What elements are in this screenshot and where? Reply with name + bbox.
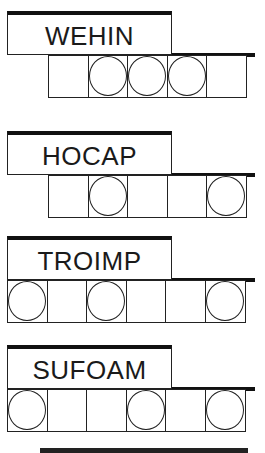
answer-cell-circled[interactable] [205, 280, 246, 323]
answer-cell[interactable] [206, 55, 247, 98]
scrambled-word: WEHIN [45, 23, 134, 49]
answer-cell[interactable] [127, 175, 168, 218]
answer-cells [7, 280, 246, 323]
answer-cell-circled[interactable] [88, 55, 129, 98]
answer-cell[interactable] [86, 389, 127, 432]
answer-cell[interactable] [167, 175, 208, 218]
word-puzzle-4: SUFOAM [0, 345, 265, 445]
answer-cell[interactable] [48, 175, 89, 218]
answer-cell[interactable] [165, 389, 206, 432]
word-puzzle-2: HOCAP [0, 131, 265, 231]
answer-cell[interactable] [47, 389, 88, 432]
answer-cells [48, 175, 247, 218]
answer-cell[interactable] [165, 280, 206, 323]
answer-cell-circled[interactable] [126, 389, 167, 432]
answer-cells [48, 55, 247, 98]
scrambled-word-box: SUFOAM [7, 345, 172, 389]
answer-cell[interactable] [47, 280, 88, 323]
scrambled-word-box: TROIMP [7, 236, 172, 280]
scrambled-word: SUFOAM [32, 357, 146, 383]
answer-cells [7, 389, 246, 432]
answer-cell[interactable] [48, 55, 89, 98]
scrambled-word-box: WEHIN [7, 11, 172, 55]
answer-cell-circled[interactable] [127, 55, 168, 98]
answer-cell-circled[interactable] [167, 55, 208, 98]
answer-cell-circled[interactable] [88, 175, 129, 218]
answer-cell-circled[interactable] [7, 280, 48, 323]
final-answer-bar [40, 448, 248, 453]
answer-cell-circled[interactable] [7, 389, 48, 432]
scrambled-word: TROIMP [37, 248, 141, 274]
answer-cell-circled[interactable] [206, 175, 247, 218]
answer-cell-circled[interactable] [205, 389, 246, 432]
scrambled-word-box: HOCAP [7, 131, 172, 175]
scrambled-word: HOCAP [42, 143, 137, 169]
word-puzzle-3: TROIMP [0, 236, 265, 336]
word-puzzle-1: WEHIN [0, 11, 265, 111]
answer-cell[interactable] [126, 280, 167, 323]
answer-cell-circled[interactable] [86, 280, 127, 323]
